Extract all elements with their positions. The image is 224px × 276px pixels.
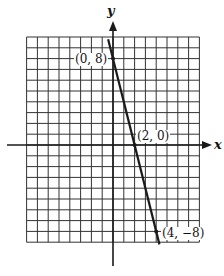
x-axis-arrow-icon <box>202 141 212 149</box>
point-label-2-0: (2, 0) <box>136 130 170 143</box>
x-axis-label: x <box>214 137 222 152</box>
point-label-0-8: (0, 8) <box>74 53 108 66</box>
data-point <box>133 143 137 147</box>
data-point <box>154 229 158 233</box>
y-axis-arrow-icon <box>109 21 117 31</box>
y-axis-label: y <box>107 3 115 18</box>
point-label-4-neg8: (4, −8) <box>161 227 205 240</box>
data-point <box>111 57 115 61</box>
